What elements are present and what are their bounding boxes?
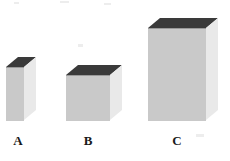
bar-c-front-face [148,28,206,121]
bar-c-label: C [167,134,187,147]
bar-chart-figure: A B C [0,0,230,161]
